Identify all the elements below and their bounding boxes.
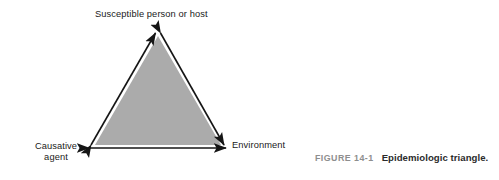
vertex-label-host: Susceptible person or host	[95, 9, 208, 20]
figure-caption-number: FIGURE 14-1	[315, 152, 374, 163]
figure-container: Susceptible person or host Causative age…	[0, 0, 499, 180]
vertex-label-agent: Causative agent	[28, 141, 84, 163]
figure-caption-text: Epidemiologic triangle.	[382, 152, 489, 163]
figure-caption: FIGURE 14-1Epidemiologic triangle.	[315, 147, 488, 165]
triangle-fill	[95, 36, 221, 145]
vertex-label-environment: Environment	[232, 140, 285, 151]
